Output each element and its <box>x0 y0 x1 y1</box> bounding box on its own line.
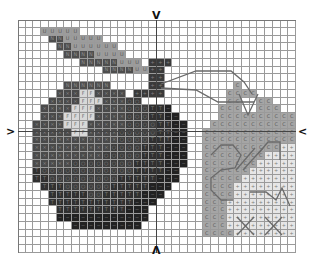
stitch-cell: − <box>57 214 65 222</box>
stitch-cell <box>234 74 242 82</box>
stitch-cell <box>196 113 204 121</box>
stitch-cell <box>257 20 265 28</box>
stitch-cell <box>103 230 111 238</box>
stitch-cell <box>257 74 265 82</box>
top-center-arrow-icon: V <box>152 10 161 21</box>
stitch-cell: T <box>103 199 111 207</box>
stitch-cell: + <box>234 191 242 199</box>
stitch-cell: × <box>41 144 49 152</box>
stitch-cell <box>126 237 134 245</box>
stitch-cell <box>18 160 26 168</box>
stitch-cell: × <box>118 113 126 121</box>
stitch-cell: N <box>111 59 119 67</box>
stitch-cell: C <box>257 121 265 129</box>
stitch-cell <box>203 113 211 121</box>
stitch-cell <box>196 36 204 44</box>
stitch-cell: − <box>142 191 150 199</box>
stitch-cell <box>33 199 41 207</box>
stitch-cell: T <box>57 183 65 191</box>
stitch-cell <box>64 59 72 67</box>
stitch-cell <box>288 20 296 28</box>
stitch-cell <box>157 230 165 238</box>
stitch-cell: N <box>80 51 88 59</box>
stitch-cell <box>188 90 196 98</box>
stitch-cell: + <box>250 191 258 199</box>
stitch-cell <box>234 43 242 51</box>
stitch-cell: N <box>126 67 134 75</box>
stitch-cell: C <box>234 82 242 90</box>
stitch-cell: ○ <box>134 152 142 160</box>
stitch-cell: T <box>157 121 165 129</box>
stitch-cell <box>188 28 196 36</box>
stitch-cell <box>126 245 134 253</box>
stitch-cell: C <box>288 113 296 121</box>
stitch-cell: C <box>265 137 273 145</box>
stitch-cell <box>26 245 34 253</box>
stitch-cell <box>172 105 180 113</box>
stitch-cell <box>18 74 26 82</box>
stitch-cell: C <box>265 98 273 106</box>
stitch-cell: + <box>157 59 165 67</box>
stitch-cell <box>172 230 180 238</box>
stitch-cell: − <box>111 222 119 230</box>
stitch-cell: ○ <box>95 160 103 168</box>
stitch-cell <box>288 237 296 245</box>
stitch-cell: C <box>211 183 219 191</box>
stitch-cell <box>172 74 180 82</box>
stitch-cell: F <box>88 105 96 113</box>
stitch-cell <box>227 20 235 28</box>
stitch-cell: × <box>41 105 49 113</box>
stitch-cell: × <box>64 98 72 106</box>
stitch-cell: + <box>250 175 258 183</box>
stitch-cell <box>180 20 188 28</box>
stitch-cell: N <box>80 59 88 67</box>
stitch-cell <box>18 245 26 253</box>
stitch-cell <box>33 237 41 245</box>
stitch-cell: N <box>64 43 72 51</box>
stitch-cell <box>64 237 72 245</box>
stitch-cell: − <box>172 168 180 176</box>
stitch-cell <box>180 237 188 245</box>
stitch-cell <box>281 28 289 36</box>
stitch-cell <box>33 74 41 82</box>
stitch-cell: N <box>72 51 80 59</box>
stitch-cell <box>180 51 188 59</box>
stitch-cell: F <box>72 129 80 137</box>
stitch-cell: C <box>211 199 219 207</box>
stitch-cell: F <box>64 121 72 129</box>
stitch-cell: U <box>64 36 72 44</box>
stitch-cell: ○ <box>64 183 72 191</box>
stitch-cell: − <box>88 214 96 222</box>
stitch-cell: C <box>219 206 227 214</box>
stitch-cell <box>188 144 196 152</box>
stitch-cell: ○ <box>57 175 65 183</box>
stitch-cell: × <box>72 144 80 152</box>
stitch-cell: T <box>41 175 49 183</box>
stitch-cell: × <box>57 105 65 113</box>
stitch-cell <box>142 230 150 238</box>
stitch-cell <box>57 222 65 230</box>
stitch-cell <box>26 121 34 129</box>
stitch-cell: C <box>227 129 235 137</box>
stitch-cell: ○ <box>118 168 126 176</box>
stitch-cell: C <box>242 113 250 121</box>
stitch-cell <box>203 20 211 28</box>
stitch-cell <box>288 67 296 75</box>
stitch-cell: + <box>165 59 173 67</box>
stitch-cell: C <box>257 152 265 160</box>
stitch-cell: ○ <box>103 152 111 160</box>
stitch-cell: C <box>227 160 235 168</box>
stitch-cell <box>18 237 26 245</box>
stitch-cell: U <box>134 59 142 67</box>
stitch-cell: ○ <box>126 168 134 176</box>
stitch-cell <box>234 245 242 253</box>
stitch-cell <box>196 222 204 230</box>
stitch-cell <box>26 214 34 222</box>
stitch-cell <box>57 51 65 59</box>
stitch-cell <box>111 28 119 36</box>
stitch-cell <box>196 230 204 238</box>
stitch-cell: T <box>157 152 165 160</box>
stitch-cell <box>203 36 211 44</box>
stitch-cell <box>33 245 41 253</box>
stitch-cell: C <box>242 121 250 129</box>
